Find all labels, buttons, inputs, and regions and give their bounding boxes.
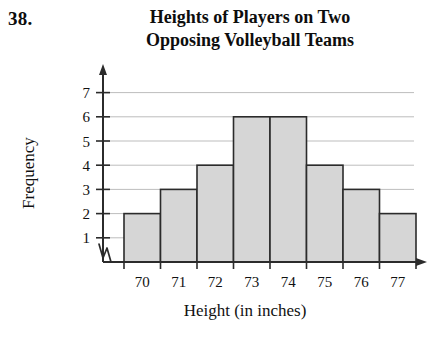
x-tick-label: 77 <box>390 274 406 290</box>
histogram-bar <box>124 214 161 262</box>
axis-break-icon <box>99 244 111 262</box>
histogram-figure: 1234567 7071727374757677 Frequency Heigh… <box>0 58 440 357</box>
x-axis-title: Height (in inches) <box>95 301 395 321</box>
bars-group <box>124 117 416 262</box>
y-tick-label: 4 <box>83 158 91 174</box>
y-axis <box>99 64 107 262</box>
y-tick-label: 3 <box>83 182 91 198</box>
chart-title-line-2: Opposing Volleyball Teams <box>70 29 430 52</box>
histogram-bar <box>380 214 417 262</box>
y-ticks-group: 1234567 <box>83 85 111 246</box>
x-ticks-group: 7071727374757677 <box>124 262 416 290</box>
x-tick-label: 70 <box>135 274 150 290</box>
histogram-bar <box>270 117 307 262</box>
histogram-bar <box>197 165 234 262</box>
histogram-bar <box>234 117 271 262</box>
x-tick-label: 72 <box>208 274 223 290</box>
y-tick-label: 6 <box>83 109 91 125</box>
x-tick-label: 71 <box>171 274 186 290</box>
y-tick-label: 2 <box>83 206 91 222</box>
x-tick-label: 75 <box>317 274 332 290</box>
histogram-bar <box>307 165 344 262</box>
y-tick-label: 7 <box>83 85 91 101</box>
chart-title-line-1: Heights of Players on Two <box>70 6 430 29</box>
x-tick-label: 74 <box>281 274 297 290</box>
x-tick-label: 73 <box>244 274 259 290</box>
problem-number: 38. <box>8 8 32 30</box>
y-tick-label: 1 <box>83 230 91 246</box>
histogram-bar <box>161 189 198 262</box>
histogram-bar <box>343 189 380 262</box>
y-tick-label: 5 <box>83 134 91 150</box>
chart-title: Heights of Players on Two Opposing Volle… <box>70 6 430 52</box>
x-tick-label: 76 <box>354 274 370 290</box>
y-axis-title: Frequency <box>19 113 39 233</box>
